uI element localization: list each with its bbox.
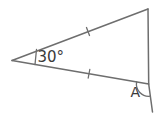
triangle-figure: 30° A [0, 0, 165, 118]
geometry-diagram: 30° A [0, 0, 165, 118]
apex-angle-label: 30° [38, 48, 65, 66]
bottom-side-tick-mark [88, 70, 90, 79]
triangle-top-side [12, 9, 148, 61]
triangle-bottom-side [12, 61, 149, 85]
vertex-a-label: A [131, 84, 141, 100]
